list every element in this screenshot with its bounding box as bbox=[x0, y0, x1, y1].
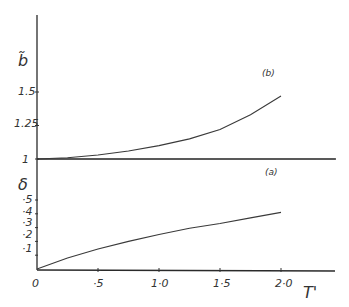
upper-y-axis-label: b̃ bbox=[18, 51, 28, 70]
lower-tick-0-5: ·5 bbox=[22, 193, 33, 206]
x-tick-2-0: 2·0 bbox=[275, 277, 293, 290]
curve-a bbox=[37, 212, 281, 269]
lower-y-axis-label: δ bbox=[18, 175, 28, 194]
upper-tick-1-25: 1.25 bbox=[14, 117, 39, 130]
x-tick-1-5: 1·5 bbox=[213, 277, 231, 290]
x-axis bbox=[37, 270, 335, 271]
lower-tick-0-4: ·4 bbox=[22, 205, 33, 218]
x-tick-1-0: 1·0 bbox=[151, 277, 169, 290]
curve-b-label: (b) bbox=[262, 68, 275, 78]
curve-a-label: (a) bbox=[265, 167, 278, 177]
curves bbox=[37, 96, 336, 269]
chart-figure: b̃ δ T' (b) (a) 1 1.25 1.5 ·1 ·2 ·3 ·4 ·… bbox=[0, 0, 349, 307]
x-tick-0-5: ·5 bbox=[93, 277, 104, 290]
upper-tick-1: 1 bbox=[22, 153, 29, 166]
lower-tick-0-2: ·2 bbox=[22, 228, 33, 241]
upper-tick-1-5: 1.5 bbox=[18, 85, 36, 98]
axis-ticks bbox=[35, 92, 281, 272]
x-axis-label: T' bbox=[303, 283, 317, 302]
curve-b bbox=[37, 96, 281, 159]
x-tick-0: 0 bbox=[32, 277, 39, 290]
lower-tick-0-1: ·1 bbox=[22, 242, 33, 255]
